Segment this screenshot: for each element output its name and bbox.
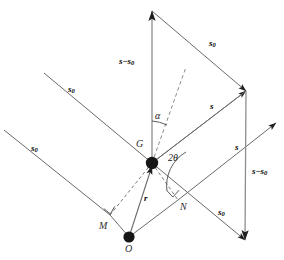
label-s-scattered-lower: s <box>235 143 239 152</box>
s0-bottom-edge-line <box>152 163 245 240</box>
label-s0-incident-lower-left: s0 <box>31 144 38 154</box>
label-s0-top-right: s0 <box>209 39 216 49</box>
label-point-O: O <box>125 244 132 254</box>
spacer-line-2 <box>129 237 245 240</box>
dashed-G-to-M <box>110 163 152 215</box>
label-s-scattered-upper: s <box>210 102 214 111</box>
point-dot-G <box>146 157 158 169</box>
label-s0-incident-upper-left: s0 <box>68 85 75 95</box>
s-ray-origin-to-N <box>129 200 178 237</box>
s-ray-N-to-arrow <box>178 123 276 200</box>
scattered-beam-lower <box>129 123 276 237</box>
point-dot-O <box>123 231 134 242</box>
label-point-N: N <box>180 202 187 212</box>
s0-ray-lower-left-segment <box>4 130 110 215</box>
label-point-G: G <box>136 139 143 149</box>
s0-top-edge-line <box>152 11 246 91</box>
incident-beam-lower-left <box>4 130 245 240</box>
label-s-minus-s0-right: s−s0 <box>252 167 267 177</box>
label-r-vector: r <box>144 194 148 203</box>
label-s0-bottom-right: s0 <box>218 208 225 218</box>
s0-ray-upper-left-segment <box>44 73 152 163</box>
alpha-angle-arc <box>152 121 167 125</box>
spacer-line <box>129 237 245 240</box>
scattered-beam-upper <box>152 91 246 163</box>
label-s-minus-s0-left: s−s0 <box>119 57 134 67</box>
scattering-geometry-figure: s0 s0 s0 s0 s s s−s0 s−s0 r G O M N α 2θ <box>0 0 284 260</box>
diagram-canvas <box>0 0 284 260</box>
s-ray-G-to-right-vertex <box>152 91 246 163</box>
s-minus-s0-vertical-right <box>245 91 246 240</box>
label-angle-alpha: α <box>155 111 160 121</box>
label-angle-2theta: 2θ <box>168 153 178 163</box>
label-point-M: M <box>99 221 107 231</box>
